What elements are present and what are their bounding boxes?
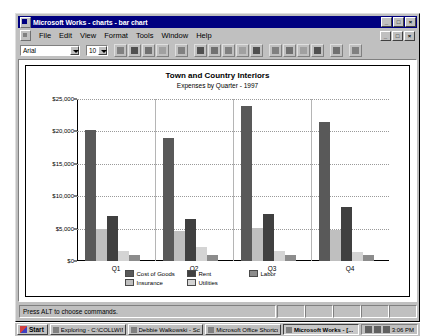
legend-item[interactable]: Utilities: [187, 279, 249, 286]
bar[interactable]: [118, 251, 129, 261]
menu-item-view[interactable]: View: [76, 31, 100, 40]
document-icon[interactable]: [20, 30, 31, 41]
category-separator: [311, 99, 312, 261]
chart-type-button[interactable]: [330, 44, 343, 57]
y-axis-line: [77, 99, 78, 261]
window-icon: [286, 327, 292, 333]
bar[interactable]: [207, 255, 218, 261]
cut-button[interactable]: [175, 44, 188, 57]
bar-group[interactable]: Q2: [163, 99, 225, 261]
legend-item[interactable]: Cost of Goods: [125, 270, 187, 277]
bar[interactable]: [252, 228, 263, 261]
taskbar-button[interactable]: Microsoft Office Shortcut: [205, 324, 281, 335]
chart-canvas[interactable]: Town and Country Interiors Expenses by Q…: [25, 65, 410, 297]
display-icon[interactable]: [374, 326, 381, 333]
chevron-down-icon[interactable]: [70, 46, 79, 55]
legend-item[interactable]: Labor: [249, 270, 311, 277]
windows-flag-icon: [20, 326, 27, 333]
3d-chart-button[interactable]: [283, 44, 296, 57]
bar[interactable]: [107, 216, 118, 261]
bar[interactable]: [196, 247, 207, 261]
legend-label: Utilities: [199, 280, 218, 286]
chart-title: Town and Country Interiors: [26, 71, 409, 80]
bar[interactable]: [330, 230, 341, 261]
line-chart-button[interactable]: [208, 44, 221, 57]
maximize-icon[interactable]: □: [393, 17, 404, 27]
pie-chart-button[interactable]: [222, 44, 235, 57]
taskbar-button[interactable]: Debbie Walkowski - Sch...: [128, 324, 204, 335]
bar-group[interactable]: Q4: [319, 99, 381, 261]
bar-group[interactable]: Q3: [241, 99, 303, 261]
window-controls: _ □ ×: [381, 17, 416, 27]
taskbar-button[interactable]: Microsoft Works - [...: [283, 324, 359, 335]
window-title: Microsoft Works - charts - bar chart: [33, 19, 381, 26]
bar[interactable]: [241, 106, 252, 261]
taskbar-button-label: Debbie Walkowski - Sch...: [139, 327, 201, 333]
menu-item-format[interactable]: Format: [100, 31, 132, 40]
desktop: Microsoft Works - charts - bar chart _ □…: [0, 0, 432, 336]
category-separator: [233, 99, 234, 261]
bar[interactable]: [96, 229, 107, 261]
save-button[interactable]: [128, 44, 141, 57]
window-icon: [131, 327, 137, 333]
bar[interactable]: [85, 130, 96, 261]
legend-label: Rent: [199, 271, 212, 277]
chevron-down-icon[interactable]: [98, 46, 107, 55]
legend-item[interactable]: Insurance: [125, 279, 187, 286]
bar[interactable]: [129, 255, 140, 261]
y-axis-tick-label: $5,000: [56, 226, 74, 232]
network-icon[interactable]: [383, 326, 390, 333]
close-icon[interactable]: ×: [405, 17, 416, 27]
document-close-icon[interactable]: ×: [404, 31, 415, 41]
bar[interactable]: [174, 231, 185, 261]
radar-chart-button[interactable]: [311, 44, 324, 57]
document-restore-icon[interactable]: □: [392, 31, 403, 41]
document-area[interactable]: Town and Country Interiors Expenses by Q…: [18, 59, 417, 302]
bar-chart-button[interactable]: [194, 44, 207, 57]
bar[interactable]: [363, 255, 374, 261]
legend-item[interactable]: Rent: [187, 270, 249, 277]
y-axis-tick-label: $10,000: [52, 193, 74, 199]
new-button[interactable]: [114, 44, 127, 57]
font-name-combo[interactable]: Arial: [20, 45, 80, 56]
bar[interactable]: [274, 251, 285, 261]
minimize-icon[interactable]: _: [381, 17, 392, 27]
menu-item-file[interactable]: File: [35, 31, 55, 40]
stacked-chart-button[interactable]: [236, 44, 249, 57]
taskbar-button[interactable]: Exploring - C:\COLLWIN...: [50, 324, 126, 335]
legend-label: Insurance: [137, 280, 163, 286]
plot-area: $0$5,000$10,000$15,000$20,000$25,000 Q1Q…: [77, 99, 389, 261]
print-button[interactable]: [142, 44, 155, 57]
bar[interactable]: [285, 255, 296, 261]
bar[interactable]: [185, 219, 196, 261]
font-size-combo[interactable]: 10: [86, 45, 108, 56]
taskbar: Start Exploring - C:\COLLWIN...Debbie Wa…: [15, 322, 420, 336]
bar[interactable]: [263, 214, 274, 261]
xy-chart-button[interactable]: [297, 44, 310, 57]
bar-group[interactable]: Q1: [85, 99, 147, 261]
taskbar-button-label: Microsoft Works - [...: [294, 327, 353, 333]
document-minimize-icon[interactable]: _: [380, 31, 391, 41]
menu-item-window[interactable]: Window: [157, 31, 192, 40]
area-chart-button[interactable]: [250, 44, 263, 57]
combo-chart-button[interactable]: [269, 44, 282, 57]
y-axis-tick-mark: [74, 99, 77, 100]
system-tray: 3:06 PM: [361, 324, 418, 335]
menu-item-tools[interactable]: Tools: [132, 31, 158, 40]
volume-icon[interactable]: [365, 326, 372, 333]
menu-item-edit[interactable]: Edit: [55, 31, 76, 40]
bar[interactable]: [163, 138, 174, 261]
bar[interactable]: [341, 207, 352, 261]
print-preview-button[interactable]: [156, 44, 169, 57]
bar[interactable]: [319, 122, 330, 261]
legend-label: Cost of Goods: [137, 271, 175, 277]
clock[interactable]: 3:06 PM: [392, 327, 414, 333]
y-axis-tick-label: $25,000: [52, 96, 74, 102]
bar[interactable]: [352, 252, 363, 261]
status-cell: [277, 305, 305, 318]
help-button[interactable]: [349, 44, 362, 57]
application-window: Microsoft Works - charts - bar chart _ □…: [15, 13, 420, 322]
start-button[interactable]: Start: [17, 324, 48, 335]
menu-item-help[interactable]: Help: [192, 31, 215, 40]
status-cell: [389, 305, 417, 318]
